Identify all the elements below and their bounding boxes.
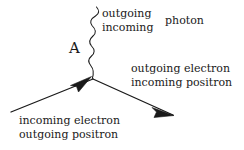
right-incoming-positron-label: incoming positron xyxy=(131,76,232,89)
left-outgoing-positron-label: outgoing positron xyxy=(19,128,118,141)
vertex-label-a: A xyxy=(69,41,80,56)
photon-wavy-line xyxy=(89,7,99,79)
feynman-diagram: A outgoing incoming photon outgoing elec… xyxy=(0,0,244,150)
right-outgoing-electron-label: outgoing electron xyxy=(131,62,230,75)
left-incoming-electron-label: incoming electron xyxy=(19,114,120,127)
photon-name-label: photon xyxy=(165,14,204,27)
photon-outgoing-label: outgoing xyxy=(102,7,151,20)
incoming-fermion-line xyxy=(11,77,93,113)
photon-incoming-label: incoming xyxy=(102,21,153,34)
